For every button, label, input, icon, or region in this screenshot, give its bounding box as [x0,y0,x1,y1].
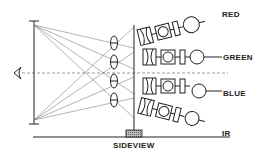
channel-blue [143,78,222,98]
eye-icon [14,67,21,79]
label-ir: IR [222,129,231,138]
caption-sideview: SIDEVIEW [113,141,155,150]
channel-green [143,49,222,65]
lens-array [111,36,118,107]
label-red: RED [222,10,240,19]
base-block [126,130,142,137]
channel-red [137,14,207,46]
sideview-diagram: RED GREEN BLUE IR SIDEVIEW [0,0,266,155]
screen-plane [29,21,39,124]
channel-ir [138,98,207,130]
lamp-icon [192,84,206,98]
lamp-icon [182,15,201,34]
lamp-icon [184,110,201,127]
label-green: GREEN [223,53,253,62]
light-rays [34,25,134,120]
label-blue: BLUE [223,89,246,98]
lamp-icon [190,50,204,64]
